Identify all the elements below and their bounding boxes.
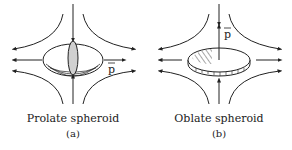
caption-label: (b): [146, 128, 292, 139]
flow-curve-top-left: [160, 14, 209, 49]
flow-curve-top-left: [14, 14, 63, 49]
flow-curve-top-right: [229, 14, 280, 49]
caption-title: Prolate spheroid: [0, 112, 146, 125]
flow-curve-bottom-right: [229, 71, 280, 104]
flow-curve-bottom-left: [14, 71, 63, 104]
panel-prolate-spheroid: p Prolate spheroid (a): [0, 0, 146, 150]
prolate-spheroid-shape: [68, 41, 78, 75]
vector-p-label: p: [224, 28, 231, 41]
caption-label: (a): [0, 128, 146, 139]
prolate-flow-diagram: p: [0, 0, 146, 110]
caption-title: Oblate spheroid: [146, 112, 292, 125]
oblate-flow-diagram: p: [146, 0, 292, 110]
flow-curve-top-right: [83, 14, 134, 49]
panel-oblate-spheroid: p Oblate spheroid (b): [146, 0, 292, 150]
vector-p-label: p: [108, 63, 115, 76]
flow-curve-bottom-left: [160, 71, 209, 104]
